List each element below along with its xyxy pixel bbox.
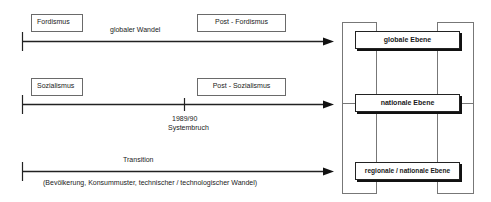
level-globale-ebene-label: globale Ebene — [384, 36, 431, 43]
box-post-fordismus-label: Post - Fordismus — [215, 18, 268, 25]
box-post-sozialismus: Post - Sozialismus — [197, 78, 286, 96]
label-globaler-wandel: globaler Wandel — [110, 25, 160, 34]
level-regionale-nationale-ebene: regionale / nationale Ebene — [355, 162, 460, 180]
level-nationale-ebene: nationale Ebene — [355, 94, 460, 112]
level-globale-ebene: globale Ebene — [355, 31, 460, 49]
box-sozialismus: Sozialismus — [31, 78, 83, 96]
box-post-sozialismus-label: Post - Sozialismus — [213, 82, 271, 89]
level-nationale-ebene-label: nationale Ebene — [381, 99, 435, 106]
box-fordismus-label: Fordismus — [37, 18, 70, 25]
box-sozialismus-label: Sozialismus — [37, 82, 74, 89]
label-transition-factors: (Bevölkerung, Konsummuster, technischer … — [43, 178, 257, 187]
level-regionale-nationale-ebene-label: regionale / nationale Ebene — [365, 167, 450, 174]
timeline-arrow-global — [22, 32, 334, 51]
milestone-year: 1989/90 — [172, 114, 197, 123]
timeline-arrow-national — [22, 95, 334, 114]
box-post-fordismus: Post - Fordismus — [197, 14, 286, 32]
milestone-label: Systembruch — [168, 123, 209, 132]
box-fordismus: Fordismus — [31, 14, 83, 32]
label-transition: Transition — [123, 155, 153, 164]
